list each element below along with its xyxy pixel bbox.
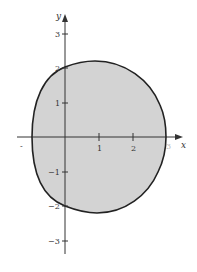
x-tick-label-2: 2 <box>131 144 136 153</box>
y-tick-label-neg2: −2 <box>48 202 60 211</box>
y-tick-label-neg3: −3 <box>48 237 60 246</box>
y-tick-label-3: 3 <box>55 30 60 39</box>
y-tick-label-neg1: −1 <box>48 168 60 177</box>
y-axis-label: y <box>55 11 62 21</box>
chart-svg: x y - 1 2 3 3 2 1 −1 −2 −3 <box>0 0 197 272</box>
y-tick-label-2: 2 <box>55 64 60 73</box>
chart-figure: x y - 1 2 3 3 2 1 −1 −2 −3 <box>0 0 197 272</box>
x-axis-label: x <box>181 140 186 150</box>
y-tick-label-1: 1 <box>55 99 60 108</box>
x-tick-label-1: 1 <box>97 144 102 153</box>
x-tick-label-neg1: - <box>20 142 23 151</box>
y-axis-arrow-icon <box>62 14 68 22</box>
x-tick-label-3: 3 <box>166 142 171 151</box>
